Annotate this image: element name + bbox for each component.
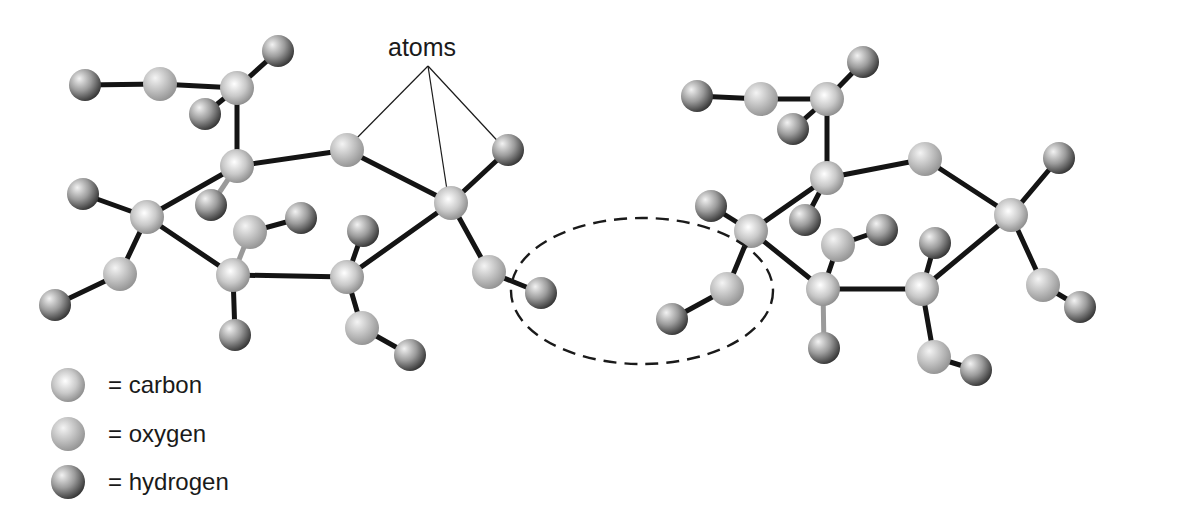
carbon-atom	[330, 260, 364, 294]
oxygen-atom	[345, 311, 379, 345]
hydrogen-atom	[695, 190, 727, 222]
carbon-atom	[806, 272, 840, 306]
legend-label-oxygen: = oxygen	[108, 420, 206, 447]
oxygen-atom	[472, 255, 506, 289]
hydrogen-atom	[919, 227, 951, 259]
bond-line	[233, 275, 347, 277]
hydrogen-atom	[394, 339, 426, 371]
hydrogen-atom	[777, 113, 809, 145]
hydrogen-atom	[219, 319, 251, 351]
annotation-pointer-line	[428, 66, 506, 150]
hydrogen-atom	[195, 189, 227, 221]
hydrogen-atom	[285, 202, 317, 234]
hydrogen-atom	[808, 332, 840, 364]
hydrogen-atom	[69, 69, 101, 101]
hydrogen-atom	[525, 277, 557, 309]
disaccharide-diagram: atoms = carbon = oxygen = hydrogen	[0, 0, 1201, 530]
hydrogen-atom	[1043, 142, 1075, 174]
oxygen-atom	[330, 133, 364, 167]
oxygen-atom	[103, 257, 137, 291]
hydrogen-atom	[960, 354, 992, 386]
hydrogen-atom	[189, 98, 221, 130]
oxygen-swatch-icon	[51, 417, 85, 451]
oxygen-atom	[143, 67, 177, 101]
carbon-atom	[434, 186, 468, 220]
hydrogen-atom	[39, 289, 71, 321]
oxygen-atom	[1026, 268, 1060, 302]
legend-item-carbon: = carbon	[51, 368, 202, 402]
carbon-atom	[810, 82, 844, 116]
legend-item-oxygen: = oxygen	[51, 417, 206, 451]
hydrogen-atom	[262, 35, 294, 67]
oxygen-atom	[908, 142, 942, 176]
carbon-atom	[220, 71, 254, 105]
annotation-pointer-line	[428, 66, 449, 203]
legend-item-hydrogen: = hydrogen	[51, 465, 229, 499]
carbon-atom	[905, 272, 939, 306]
bond-line	[347, 150, 451, 203]
legend-label-carbon: = carbon	[108, 371, 202, 398]
hydrogen-atom	[492, 134, 524, 166]
hydrogen-atom	[847, 46, 879, 78]
hydrogen-atom	[866, 214, 898, 246]
carbon-swatch-icon	[51, 368, 85, 402]
oxygen-atom	[821, 228, 855, 262]
hydrogen-atom	[347, 215, 379, 247]
hydrogen-atom	[67, 178, 99, 210]
carbon-atom	[994, 198, 1028, 232]
oxygen-atom	[917, 340, 951, 374]
hydrogen-atom	[681, 80, 713, 112]
hydrogen-atom	[1064, 291, 1096, 323]
legend: = carbon = oxygen = hydrogen	[51, 368, 229, 499]
hydrogen-atom	[789, 204, 821, 236]
atoms-annotation-label: atoms	[388, 33, 456, 61]
hydrogen-swatch-icon	[51, 465, 85, 499]
carbon-atom	[220, 149, 254, 183]
annotation-pointers	[345, 66, 506, 203]
carbon-atom	[216, 258, 250, 292]
oxygen-atom	[710, 272, 744, 306]
oxygen-atom	[233, 215, 267, 249]
legend-label-hydrogen: = hydrogen	[108, 468, 229, 495]
carbon-atom	[810, 161, 844, 195]
oxygen-atom	[744, 82, 778, 116]
hydrogen-atom	[656, 303, 688, 335]
carbon-atom	[130, 200, 164, 234]
